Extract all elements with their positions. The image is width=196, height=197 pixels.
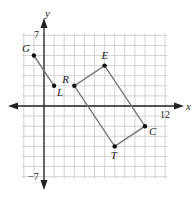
x-axis-label: x (185, 100, 191, 112)
x-tick-12-label: 12 (160, 109, 170, 120)
point-c (143, 124, 147, 128)
point-g (32, 53, 36, 57)
point-label-t: T (111, 149, 118, 161)
point-label-r: R (61, 73, 69, 85)
point-r (72, 84, 76, 88)
point-label-e: E (101, 49, 109, 61)
shapes (34, 56, 145, 147)
x-axis-arrow-left-icon (8, 103, 18, 110)
y-axis-label: y (44, 7, 50, 19)
axes: x y 12 7 −7 (8, 7, 191, 190)
points: GLRECT (22, 42, 157, 162)
point-label-g: G (22, 42, 30, 54)
x-axis-arrow-right-icon (174, 103, 184, 110)
y-tick-7-label: 7 (34, 29, 39, 40)
point-label-l: L (56, 86, 63, 98)
coordinate-plane: x y 12 7 −7 GLRECT (0, 0, 196, 197)
point-e (102, 63, 106, 67)
point-label-c: C (149, 125, 157, 137)
y-axis-arrow-down-icon (41, 180, 48, 190)
y-tick-neg7-label: −7 (28, 171, 39, 182)
y-axis-arrow-up-icon (41, 18, 48, 28)
point-l (52, 84, 56, 88)
point-t (113, 144, 117, 148)
